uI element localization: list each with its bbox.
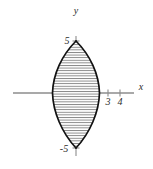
math-figure: y x 5 -5 3 4: [0, 0, 153, 169]
coordinate-plot: y x 5 -5 3 4: [0, 0, 153, 169]
y-tick-label-5: 5: [65, 35, 70, 46]
shaded-lens-region: [53, 41, 100, 148]
x-axis-label: x: [138, 81, 144, 92]
x-tick-label-3: 3: [105, 96, 111, 107]
x-tick-label-4: 4: [118, 96, 123, 107]
y-tick-label-minus-5: -5: [60, 143, 68, 154]
y-axis-label: y: [73, 5, 79, 16]
